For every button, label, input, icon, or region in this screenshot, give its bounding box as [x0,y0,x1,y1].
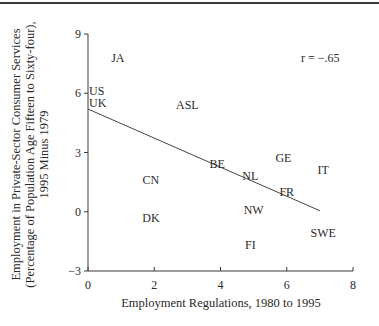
point-label-nl: NL [242,169,258,183]
point-label-be: BE [210,157,225,171]
y-tick-label: 3 [75,146,81,160]
y-axis-title-line: (Percentage of Population Age Fifteen to… [23,21,37,287]
point-label-nw: NW [244,203,265,217]
point-label-cn: CN [143,173,160,187]
point-label-it: IT [318,163,330,177]
point-label-fi: FI [245,238,256,252]
point-label-uk: UK [89,96,107,110]
correlation-annotation: r = −.65 [301,51,340,65]
point-label-ja: JA [111,51,125,65]
data-point-labels: JAUSUKASLBEGEITNLCNFRNWDKSWEFI [89,51,336,253]
point-label-dk: DK [142,211,160,225]
y-tick-label: 9 [75,27,81,41]
point-label-swe: SWE [311,226,336,240]
point-label-fr: FR [279,185,294,199]
x-tick-label: 4 [218,278,224,292]
y-axis-title-line: 1995 Minus 1979 [37,110,51,198]
x-tick-label: 2 [151,278,157,292]
scatter-chart: −3036902468 JAUSUKASLBEGEITNLCNFRNWDKSWE… [0,0,379,326]
y-tick-label: 0 [75,205,81,219]
x-tick-label: 8 [350,278,356,292]
point-label-ge: GE [275,151,291,165]
y-axis-title: Employment in Private-Sector Consumer Se… [9,21,51,287]
y-tick-label: −3 [68,264,81,278]
y-axis-title-line: Employment in Private-Sector Consumer Se… [9,28,23,280]
y-tick-label: 6 [75,86,81,100]
x-tick-label: 6 [284,278,290,292]
x-axis-title: Employment Regulations, 1980 to 1995 [121,296,321,310]
point-label-asl: ASL [176,98,199,112]
x-tick-label: 0 [85,278,91,292]
